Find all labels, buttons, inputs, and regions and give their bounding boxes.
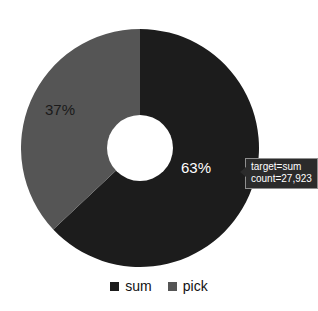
legend-label-pick: pick — [183, 278, 208, 294]
legend-swatch-pick — [168, 282, 177, 291]
tooltip-pointer-icon — [240, 167, 246, 177]
donut-svg: 63% 37% — [21, 29, 259, 267]
donut-chart-figure: 63% 37% target=sum count=27,923 sum pick — [0, 0, 318, 311]
legend-item-pick[interactable]: pick — [168, 278, 208, 294]
chart-tooltip: target=sum count=27,923 — [245, 158, 318, 189]
legend-label-sum: sum — [125, 278, 151, 294]
chart-title — [0, 0, 318, 9]
donut-plot-area: 63% 37% — [21, 29, 259, 267]
slice-label-sum: 63% — [181, 159, 211, 176]
slice-label-pick: 37% — [45, 101, 75, 118]
chart-legend: sum pick — [0, 278, 318, 294]
tooltip-target-line: target=sum — [251, 161, 313, 173]
tooltip-count-line: count=27,923 — [251, 173, 313, 185]
legend-swatch-sum — [110, 282, 119, 291]
legend-item-sum[interactable]: sum — [110, 278, 151, 294]
donut-center-hole — [107, 115, 173, 181]
